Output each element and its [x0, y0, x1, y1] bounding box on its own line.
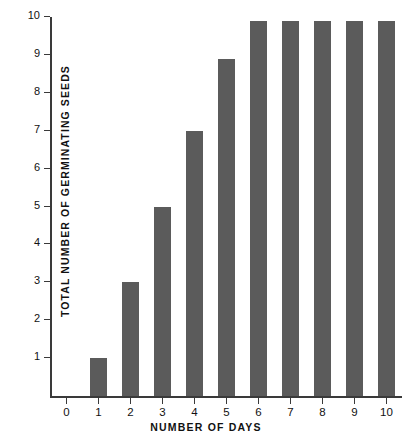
x-axis-tick-label: 5	[223, 406, 229, 418]
bar	[186, 131, 203, 396]
x-axis-tick: 5	[226, 398, 227, 404]
y-axis-tick-label: 3	[34, 274, 40, 286]
bar	[90, 358, 107, 396]
y-axis-tick-label: 4	[34, 236, 40, 248]
x-axis-tick: 3	[162, 398, 163, 404]
x-axis-tick: 9	[354, 398, 355, 404]
y-axis-tick: 8	[44, 92, 50, 93]
y-axis-tick-label: 5	[34, 199, 40, 211]
bar-chart-figure: TOTAL NUMBER OF GERMINATING SEEDS 123456…	[0, 0, 412, 441]
x-axis-tick: 2	[130, 398, 131, 404]
bar	[122, 282, 139, 396]
y-axis-line	[50, 17, 52, 398]
x-axis-tick-label: 9	[351, 406, 357, 418]
y-axis-tick-label: 10	[28, 9, 40, 21]
y-axis-tick-label: 7	[34, 123, 40, 135]
x-axis-tick-label: 10	[380, 406, 393, 418]
x-axis-tick: 4	[194, 398, 195, 404]
y-axis-tick-label: 1	[34, 350, 40, 362]
bar	[282, 21, 299, 396]
y-axis-tick: 1	[44, 357, 50, 358]
x-axis-tick: 1	[98, 398, 99, 404]
y-axis-tick: 4	[44, 243, 50, 244]
y-axis-tick: 7	[44, 130, 50, 131]
y-axis-tick-label: 6	[34, 161, 40, 173]
x-axis-tick: 0	[66, 398, 67, 404]
bar	[314, 21, 331, 396]
bar	[218, 59, 235, 396]
plot-area: 12345678910 012345678910	[50, 15, 402, 398]
y-axis-tick-label: 2	[34, 312, 40, 324]
y-axis-tick: 9	[44, 54, 50, 55]
y-axis-tick: 10	[44, 16, 50, 17]
y-axis-tick: 6	[44, 168, 50, 169]
x-axis-tick-label: 7	[287, 406, 293, 418]
x-axis-tick-label: 2	[127, 406, 133, 418]
x-axis-tick-label: 6	[255, 406, 261, 418]
bar	[378, 21, 395, 396]
y-axis-tick: 2	[44, 319, 50, 320]
y-axis-tick-label: 9	[34, 47, 40, 59]
y-axis-tick: 3	[44, 281, 50, 282]
y-axis-tick-label: 8	[34, 85, 40, 97]
bar	[346, 21, 363, 396]
x-axis-tick-label: 4	[191, 406, 197, 418]
y-axis-tick: 5	[44, 206, 50, 207]
x-axis-tick: 7	[290, 398, 291, 404]
x-axis-tick: 6	[258, 398, 259, 404]
x-axis-tick-label: 0	[63, 406, 69, 418]
x-axis-tick: 8	[322, 398, 323, 404]
x-axis-tick-label: 3	[159, 406, 165, 418]
bar	[250, 21, 267, 396]
bar	[154, 207, 171, 397]
x-axis-tick-label: 8	[319, 406, 325, 418]
x-axis-tick: 10	[386, 398, 387, 404]
x-axis-tick-label: 1	[95, 406, 101, 418]
x-axis-title: NUMBER OF DAYS	[0, 421, 412, 433]
